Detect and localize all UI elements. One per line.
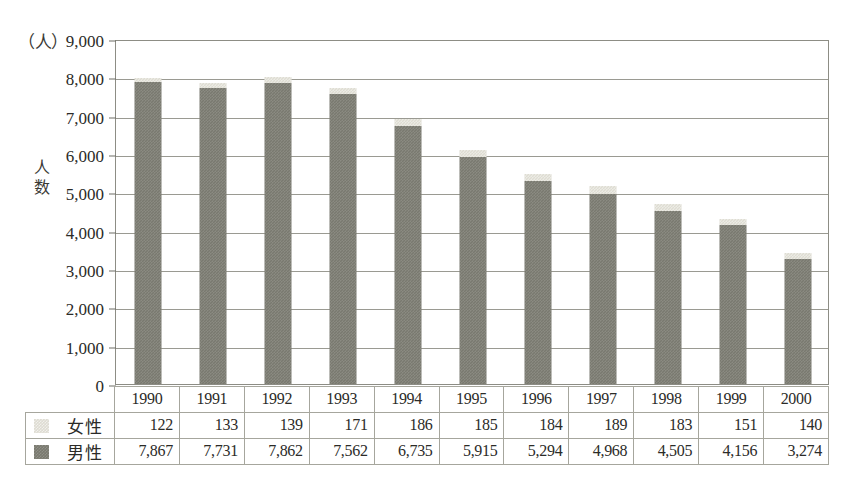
table-data-cell: 7,562 (309, 439, 374, 465)
table-data-cell: 171 (309, 413, 374, 439)
y-axis-tick-mark (109, 347, 116, 348)
bar-group (265, 77, 292, 384)
bar-group (524, 174, 551, 384)
table-data-cell: 183 (634, 413, 699, 439)
bar-segment-male (719, 225, 746, 384)
table-data-cell: 7,731 (179, 439, 244, 465)
table-row: 男性7,8677,7317,8627,5626,7355,9155,2944,9… (26, 439, 829, 465)
y-axis-tick-label: 5,000 (30, 186, 116, 203)
bar-group (395, 119, 422, 384)
y-axis-tick-mark (109, 309, 116, 310)
table-row: 女性122133139171186185184189183151140 (26, 413, 829, 439)
y-axis-tick-mark (109, 41, 116, 42)
table-data-cell: 6,735 (374, 439, 439, 465)
y-axis-tick-label: 7,000 (30, 109, 116, 126)
y-axis-tick-label: 9,000 (30, 33, 116, 50)
y-axis-tick-label: 3,000 (30, 263, 116, 280)
legend-cell: 女性 (26, 413, 115, 439)
y-axis-tick-mark (109, 194, 116, 195)
bar-group (330, 88, 357, 384)
table-year-header: 1993 (309, 387, 374, 413)
bar-segment-male (524, 181, 551, 384)
table-year-header: 1998 (634, 387, 699, 413)
bar-segment-male (135, 82, 162, 384)
bar-group (719, 219, 746, 384)
table-year-header: 1992 (244, 387, 309, 413)
bar-group (784, 253, 811, 384)
bar-segment-female (589, 186, 616, 193)
table-data-cell: 151 (699, 413, 764, 439)
bar-segment-female (654, 204, 681, 211)
table-data-cell: 4,505 (634, 439, 699, 465)
y-axis-tick-label: 6,000 (30, 148, 116, 165)
bar-segment-male (654, 211, 681, 384)
y-axis-tick-mark (109, 271, 116, 272)
table-year-header: 1999 (699, 387, 764, 413)
y-axis-tick-mark (109, 232, 116, 233)
bar-segment-male (395, 126, 422, 384)
table-data-cell: 189 (569, 413, 634, 439)
bar-segment-male (330, 94, 357, 384)
table-data-cell: 140 (764, 413, 829, 439)
table-data-cell: 122 (115, 413, 180, 439)
bar-segment-male (265, 83, 292, 384)
legend-inner: 男性 (26, 439, 114, 464)
plot-area: 9,0008,0007,0006,0005,0004,0003,0002,000… (115, 40, 829, 385)
legend-inner: 女性 (26, 413, 114, 438)
bar-group (654, 204, 681, 384)
y-axis-tick-label: 2,000 (30, 301, 116, 318)
y-axis-tick-label: 4,000 (30, 224, 116, 241)
bar-group (589, 186, 616, 384)
table-data-cell: 4,968 (569, 439, 634, 465)
legend-cell: 男性 (26, 439, 115, 465)
table-year-header: 1994 (374, 387, 439, 413)
table-year-header: 1990 (115, 387, 180, 413)
table-data-cell: 185 (439, 413, 504, 439)
male-swatch-icon (34, 445, 49, 459)
table-year-header: 1995 (439, 387, 504, 413)
table-data-cell: 7,867 (115, 439, 180, 465)
bar-segment-female (460, 150, 487, 157)
bar-segment-male (460, 157, 487, 384)
chart-figure: （人） 人数 9,0008,0007,0006,0005,0004,0003,0… (0, 0, 855, 487)
table-year-header: 2000 (764, 387, 829, 413)
table-data-cell: 4,156 (699, 439, 764, 465)
table-body: 女性122133139171186185184189183151140男性7,8… (26, 413, 829, 465)
table-data-cell: 3,274 (764, 439, 829, 465)
legend-label: 男性 (67, 439, 103, 464)
bar-segment-female (395, 119, 422, 126)
y-axis-tick-label: 1,000 (30, 339, 116, 356)
bar-group (200, 83, 227, 384)
table-data-cell: 5,294 (504, 439, 569, 465)
table-data-cell: 133 (179, 413, 244, 439)
table-data-cell: 184 (504, 413, 569, 439)
bar-segment-male (200, 88, 227, 384)
table-data-cell: 5,915 (439, 439, 504, 465)
bar-segment-male (784, 259, 811, 385)
bar-segment-male (589, 194, 616, 384)
table-data-cell: 7,862 (244, 439, 309, 465)
table-year-header: 1991 (179, 387, 244, 413)
table-year-header: 1997 (569, 387, 634, 413)
table-header-row: 1990199119921993199419951996199719981999… (26, 387, 829, 413)
y-axis-tick-label: 8,000 (30, 71, 116, 88)
data-table: 1990199119921993199419951996199719981999… (25, 386, 829, 465)
y-axis-tick-mark (109, 117, 116, 118)
bar-segment-female (524, 174, 551, 181)
table-data-cell: 139 (244, 413, 309, 439)
table-corner-cell (26, 387, 115, 413)
table-year-header: 1996 (504, 387, 569, 413)
gridline (116, 79, 828, 80)
bar-group (135, 78, 162, 384)
legend-label: 女性 (67, 413, 103, 438)
bar-group (460, 150, 487, 384)
female-swatch-icon (34, 419, 49, 433)
y-axis-tick-mark (109, 156, 116, 157)
y-axis-tick-mark (109, 79, 116, 80)
table-data-cell: 186 (374, 413, 439, 439)
